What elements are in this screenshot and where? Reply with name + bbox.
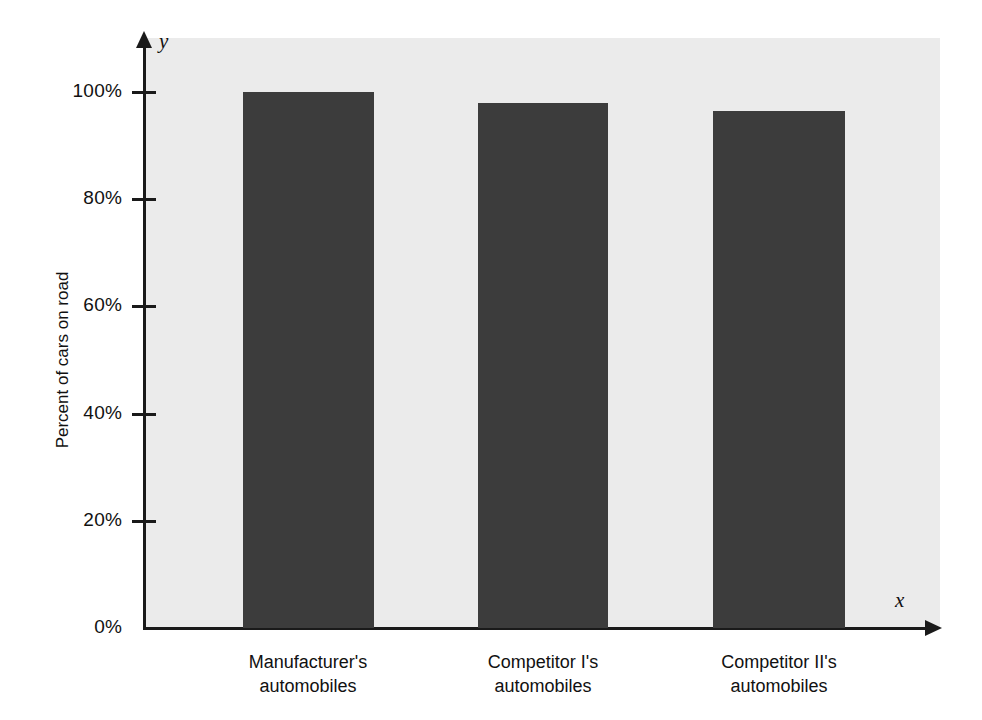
x-axis-arrow-icon [925,620,942,636]
bar-chart-figure: y x Percent of cars on road 100% 80% 60%… [0,0,982,720]
x-category-label-2: Competitor II's automobiles [659,650,899,698]
y-axis-title: Percent of cars on road [53,240,73,480]
y-tick-label: 80% [22,187,122,209]
y-tick-label: 60% [22,294,122,316]
y-tick-mark [132,198,156,201]
bar-manufacturers-automobiles [243,92,374,628]
x-category-label-line1: Competitor I's [488,652,598,672]
x-category-label-line2: automobiles [659,674,899,698]
y-tick-label: 100% [22,80,122,102]
y-axis-line [143,46,146,630]
x-category-label-0: Manufacturer's automobiles [188,650,428,698]
bar-competitor-1-automobiles [478,103,608,628]
x-axis-variable-label: x [895,588,904,613]
x-category-label-line2: automobiles [188,674,428,698]
x-category-label-line1: Competitor II's [721,652,836,672]
y-axis-arrow-icon [136,31,152,48]
x-category-label-line2: automobiles [423,674,663,698]
y-tick-mark [132,91,156,94]
y-axis-variable-label: y [159,29,168,54]
bar-competitor-2-automobiles [713,111,845,628]
y-tick-mark [132,413,156,416]
y-tick-mark [132,520,156,523]
y-tick-label: 40% [22,402,122,424]
y-tick-label: 20% [22,509,122,531]
x-category-label-line1: Manufacturer's [249,652,368,672]
x-category-label-1: Competitor I's automobiles [423,650,663,698]
y-tick-mark [132,305,156,308]
y-tick-label: 0% [22,616,122,638]
